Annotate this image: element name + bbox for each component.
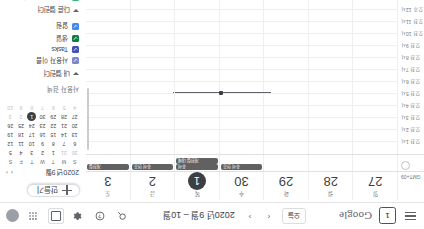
mini-day[interactable]: 10 [5, 103, 16, 112]
main-menu-button[interactable] [403, 209, 418, 224]
day-column-header-today[interactable]: 목 1 [175, 172, 220, 200]
search-people-input[interactable]: 사용자 검색 [5, 84, 79, 95]
event-drag-handle[interactable] [219, 91, 223, 95]
mini-day[interactable]: 22 [48, 121, 59, 130]
help-icon[interactable] [93, 209, 108, 224]
other-calendars-section-header[interactable]: 다른 캘린더 [5, 6, 79, 16]
day-column-header[interactable]: 금 2 [131, 172, 176, 200]
all-day-event-chip[interactable]: 개천절 [87, 164, 129, 170]
mini-day[interactable]: 23 [37, 121, 48, 130]
day-column-header[interactable]: 일 27 [353, 172, 398, 200]
all-day-cell[interactable] [309, 155, 354, 171]
search-icon[interactable] [115, 209, 130, 224]
mini-day[interactable]: 4 [16, 148, 27, 157]
all-day-cell[interactable]: 추석 개천절 대체 [175, 155, 220, 171]
mini-day[interactable]: 16 [37, 130, 48, 139]
checkbox-checked-icon[interactable] [72, 23, 79, 30]
day-number: 29 [277, 172, 295, 190]
all-day-event-chip[interactable]: 추석 연휴 [132, 164, 174, 170]
all-day-event-chip[interactable]: 추석 [176, 164, 218, 170]
mini-day[interactable]: 9 [16, 103, 27, 112]
expand-icon[interactable] [401, 161, 410, 170]
mini-day[interactable]: 24 [26, 121, 37, 130]
mini-day[interactable]: 19 [5, 130, 16, 139]
mini-day[interactable]: 15 [48, 130, 59, 139]
apps-grid-icon[interactable] [26, 209, 41, 224]
all-day-cell[interactable]: 추석 연휴 [220, 155, 265, 171]
time-grid-column[interactable] [353, 0, 398, 154]
mini-day[interactable]: 4 [69, 103, 80, 112]
mini-day[interactable]: 11 [16, 139, 27, 148]
checkbox-checked-icon[interactable] [72, 58, 79, 65]
mini-day[interactable]: 31 [59, 148, 70, 157]
mini-day-today[interactable]: 1 [26, 112, 37, 121]
all-day-cell[interactable] [353, 155, 398, 171]
mini-day[interactable]: 3 [5, 112, 16, 121]
time-grid-column[interactable] [309, 0, 354, 154]
checkbox-checked-icon[interactable] [72, 47, 79, 54]
mini-day[interactable]: 8 [48, 139, 59, 148]
mini-day[interactable]: 21 [59, 121, 70, 130]
calendar-list-item[interactable]: 알림 [5, 22, 80, 32]
avatar[interactable] [6, 210, 19, 223]
mini-day[interactable]: 5 [59, 103, 70, 112]
mini-day[interactable]: 2 [37, 148, 48, 157]
create-button[interactable]: 만들기 [27, 184, 80, 197]
mini-day[interactable]: 28 [59, 112, 70, 121]
all-day-cell[interactable]: 추석 연휴 [131, 155, 176, 171]
my-calendars-section-header[interactable]: 내 캘린더 [5, 69, 79, 79]
mini-day[interactable]: 9 [37, 139, 48, 148]
mini-day[interactable]: 20 [69, 121, 80, 130]
mini-day[interactable]: 14 [59, 130, 70, 139]
mini-day[interactable]: 25 [16, 121, 27, 130]
fullscreen-icon[interactable] [48, 208, 64, 224]
mini-day[interactable]: 6 [48, 103, 59, 112]
mini-day[interactable]: 6 [69, 139, 80, 148]
prev-period-button[interactable]: ‹ [263, 210, 275, 222]
google-calendar-app: 1 Google 오늘 ‹ › 2020년 9월 – 10월 [0, 0, 424, 229]
mini-next-month-button[interactable]: › [6, 170, 8, 176]
time-grid-column[interactable] [264, 0, 309, 154]
other-calendar-list-item[interactable]: 대한민국의 휴일 [5, 0, 80, 3]
mini-day[interactable]: 29 [48, 112, 59, 121]
time-grid-scroll[interactable]: 오전 1시 오전 2시 오전 3시 오전 4시 오전 5시 오전 6시 오전 7… [86, 0, 424, 154]
mini-day[interactable]: 30 [37, 112, 48, 121]
mini-day[interactable]: 12 [5, 139, 16, 148]
mini-day[interactable]: 2 [16, 112, 27, 121]
next-period-button[interactable]: › [244, 210, 256, 222]
time-grid-column[interactable] [131, 0, 176, 154]
mini-day[interactable]: 1 [48, 148, 59, 157]
today-button[interactable]: 오늘 [282, 208, 306, 224]
gear-icon[interactable] [71, 209, 86, 224]
day-column-header[interactable]: 화 29 [264, 172, 309, 200]
mini-day[interactable]: 30 [69, 148, 80, 157]
checkbox-checked-icon[interactable] [72, 0, 79, 1]
day-column-header[interactable]: 월 28 [309, 172, 354, 200]
calendar-list-item[interactable]: Tasks [5, 47, 80, 54]
all-day-cell[interactable] [264, 155, 309, 171]
mini-day[interactable]: 8 [26, 103, 37, 112]
mini-day[interactable]: 10 [26, 139, 37, 148]
mini-day[interactable]: 7 [37, 103, 48, 112]
all-day-event-chip[interactable]: 개천절 대체 [176, 158, 218, 164]
day-column-header[interactable]: 수 30 [220, 172, 265, 200]
mini-prev-month-button[interactable]: ‹ [11, 170, 13, 176]
day-column-header[interactable]: 토 3 [86, 172, 131, 200]
checkbox-checked-icon[interactable] [72, 36, 79, 43]
time-grid-column[interactable] [86, 0, 131, 154]
mini-day[interactable]: 18 [16, 130, 27, 139]
mini-day[interactable]: 27 [69, 112, 80, 121]
mini-day[interactable]: 13 [69, 130, 80, 139]
time-grid-column-today[interactable]: 오전 3시 – 오전 3시 30분 [175, 0, 220, 154]
all-day-cell[interactable]: 개천절 [86, 155, 131, 171]
mini-day[interactable]: 3 [26, 148, 37, 157]
mini-day[interactable]: 17 [26, 130, 37, 139]
calendar-list-item[interactable]: 생일 [5, 34, 80, 44]
time-grid-column[interactable] [220, 0, 265, 154]
time-label: 오전 2시 [401, 127, 420, 134]
mini-day[interactable]: 5 [5, 148, 16, 157]
mini-day[interactable]: 7 [59, 139, 70, 148]
calendar-list-item[interactable]: 사용자 이름 [5, 56, 80, 66]
all-day-event-chip[interactable]: 추석 연휴 [221, 164, 263, 170]
mini-day[interactable]: 26 [5, 121, 16, 130]
